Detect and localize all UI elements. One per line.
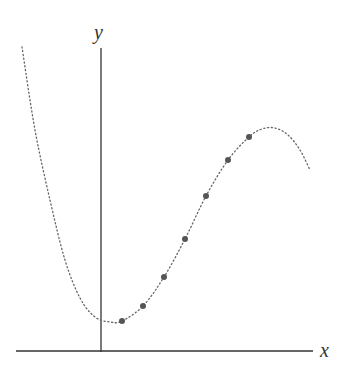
- data-points: [119, 134, 252, 324]
- x-axis-label: x: [320, 340, 329, 360]
- data-point: [182, 236, 188, 242]
- fitted-curve: [22, 47, 310, 323]
- data-point: [203, 193, 209, 199]
- data-point: [119, 318, 125, 324]
- chart-canvas: [0, 0, 353, 374]
- data-point: [140, 303, 146, 309]
- data-point: [225, 157, 231, 163]
- data-point: [161, 274, 167, 280]
- y-axis-label: y: [94, 22, 103, 42]
- data-point: [246, 134, 252, 140]
